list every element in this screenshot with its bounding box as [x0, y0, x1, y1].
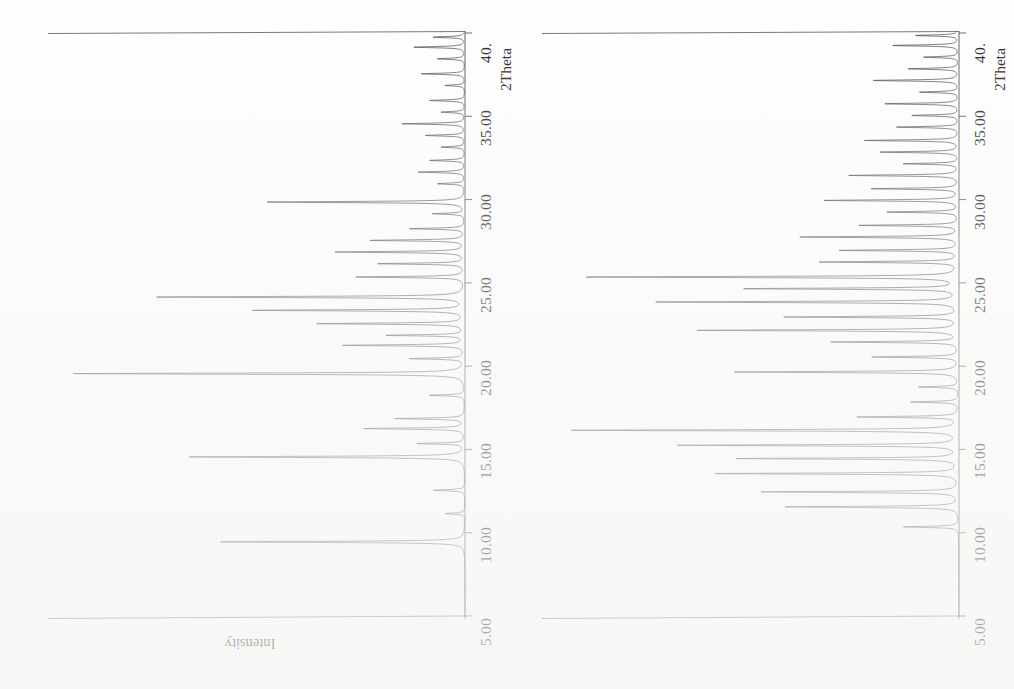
- left-plot-frame: [40, 20, 510, 670]
- diffraction-trace: [571, 33, 959, 616]
- axis-tick-label: 15.00: [477, 444, 495, 480]
- plot-bottom-border: [48, 616, 465, 619]
- right-axis-title: 2Theta: [991, 48, 1009, 91]
- axis-tick-label: 25.00: [477, 277, 495, 313]
- left-diffractogram-panel: 5.0010.0015.0020.0025.0030.0035.0040. 2T…: [40, 20, 510, 670]
- axis-tick-label: 30.00: [477, 194, 495, 230]
- axis-tick-label: 10.00: [477, 527, 495, 563]
- axis-tick-label: 20.00: [477, 360, 495, 396]
- left-axis-title: 2Theta: [497, 48, 515, 91]
- plot-top-border: [542, 32, 959, 34]
- left-plot-canvas: [40, 20, 510, 670]
- left-intensity-label: Intensity: [190, 635, 310, 652]
- axis-tick-label: 40.: [477, 43, 495, 63]
- axis-tick-label: 10.00: [971, 527, 989, 563]
- figure-page: 5.0010.0015.0020.0025.0030.0035.0040. 2T…: [0, 0, 1014, 689]
- axis-tick-label: 35.00: [971, 110, 989, 146]
- plot-bottom-border: [542, 616, 959, 619]
- axis-tick-label: 5.00: [971, 618, 989, 646]
- axis-tick-label: 20.00: [971, 360, 989, 396]
- diffraction-trace: [73, 33, 465, 616]
- axis-tick-label: 35.00: [477, 110, 495, 146]
- axis-tick-label: 5.00: [477, 618, 495, 646]
- axis-tick-label: 30.00: [971, 194, 989, 230]
- axis-tick-label: 15.00: [971, 444, 989, 480]
- axis-tick-label: 25.00: [971, 277, 989, 313]
- right-plot-canvas: [534, 20, 1004, 670]
- right-diffractogram-panel: 5.0010.0015.0020.0025.0030.0035.0040. 2T…: [534, 20, 1004, 670]
- plot-top-border: [48, 32, 465, 34]
- axis-tick-label: 40.: [971, 43, 989, 63]
- right-plot-frame: [534, 20, 1004, 670]
